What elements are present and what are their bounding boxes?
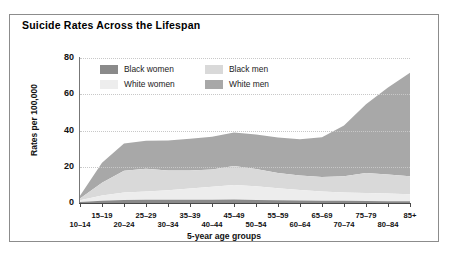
- x-axis-tick: [256, 203, 257, 207]
- x-axis-tick: [234, 203, 235, 207]
- figure-frame: Suicide Rates Across the Lifespan 020406…: [9, 14, 439, 242]
- legend-label-black-men: Black men: [229, 64, 268, 74]
- gridline: [80, 94, 410, 96]
- x-axis-tick-label: 70–74: [327, 220, 361, 229]
- gridline: [80, 131, 410, 133]
- legend-label-black-women: Black women: [124, 64, 174, 74]
- legend-swatch-black-men: [205, 65, 223, 74]
- gridline: [80, 58, 410, 60]
- title-bar: Suicide Rates Across the Lifespan: [10, 15, 438, 37]
- x-axis-tick-label: 30–34: [151, 220, 185, 229]
- x-axis-line: [79, 203, 411, 204]
- x-axis-tick: [212, 203, 213, 207]
- x-axis-tick: [80, 203, 81, 207]
- legend-label-white-women: White women: [124, 79, 175, 89]
- x-axis-tick: [410, 203, 411, 207]
- legend-swatch-white-men: [205, 80, 223, 89]
- x-axis-tick-label: 50–54: [239, 220, 273, 229]
- y-axis-tick-label: 20: [52, 161, 74, 171]
- x-axis-tick-label: 55–59: [261, 211, 295, 220]
- legend: Black women Black men White women White …: [100, 64, 300, 94]
- y-axis-tick-label: 40: [52, 125, 74, 135]
- x-axis-tick-label: 75–79: [349, 211, 383, 220]
- x-axis-tick: [278, 203, 279, 207]
- y-axis-tick-label: 0: [52, 197, 74, 207]
- x-axis-tick-label: 15–19: [85, 211, 119, 220]
- x-axis-tick-label: 85+: [393, 211, 427, 220]
- x-axis-tick-label: 20–24: [107, 220, 141, 229]
- page-title: Suicide Rates Across the Lifespan: [22, 19, 200, 31]
- x-axis-title: 5-year age groups: [10, 231, 438, 241]
- x-axis-tick: [300, 203, 301, 207]
- x-axis-tick: [168, 203, 169, 207]
- y-axis-tick-label: 80: [52, 52, 74, 62]
- x-axis-tick: [124, 203, 125, 207]
- legend-swatch-white-women: [100, 80, 118, 89]
- x-axis-tick-label: 60–64: [283, 220, 317, 229]
- x-axis-tick: [344, 203, 345, 207]
- x-axis-tick-label: 40–44: [195, 220, 229, 229]
- legend-swatch-black-women: [100, 65, 118, 74]
- gridline: [80, 167, 410, 169]
- x-axis-tick: [366, 203, 367, 207]
- x-axis-tick-label: 25–29: [129, 211, 163, 220]
- x-axis-tick-label: 45–49: [217, 211, 251, 220]
- x-axis-tick-label: 10–14: [63, 220, 97, 229]
- y-axis-tick-labels: 020406080: [50, 15, 74, 243]
- y-axis-title: Rates per 100,000: [29, 65, 39, 175]
- x-axis-tick: [322, 203, 323, 207]
- x-axis-tick-label: 35–39: [173, 211, 207, 220]
- legend-label-white-men: White men: [229, 79, 269, 89]
- x-axis-tick: [388, 203, 389, 207]
- x-axis-tick: [190, 203, 191, 207]
- x-axis-tick-label: 65–69: [305, 211, 339, 220]
- x-axis-tick-label: 80–84: [371, 220, 405, 229]
- x-axis-tick: [102, 203, 103, 207]
- y-axis-tick-label: 60: [52, 88, 74, 98]
- x-axis-tick: [146, 203, 147, 207]
